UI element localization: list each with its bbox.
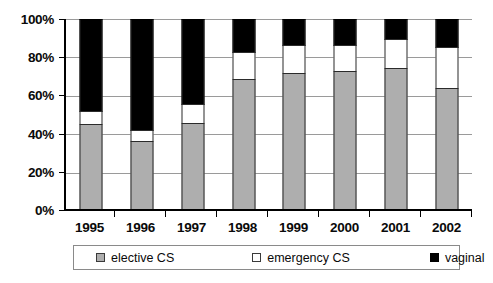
stacked-bar[interactable]: [435, 19, 458, 209]
x-tick: [217, 211, 268, 218]
x-tick-label-2001: 2001: [370, 220, 421, 238]
y-tick-label-0: 0%: [2, 204, 54, 218]
x-tick: [268, 211, 319, 218]
x-tick-label-2002: 2002: [421, 220, 472, 238]
bar-segment-emergency-cs[interactable]: [384, 40, 407, 69]
y-tick-label-100: 100%: [2, 13, 54, 27]
stacked-bar[interactable]: [384, 19, 407, 209]
x-tick-label-1999: 1999: [268, 220, 319, 238]
bar-slot: [269, 19, 320, 209]
bar-segment-emergency-cs[interactable]: [131, 131, 154, 142]
x-tick-label-2000: 2000: [319, 220, 370, 238]
y-tick-label-60: 60%: [2, 89, 54, 103]
legend-label-emergency-cs: emergency CS: [267, 251, 350, 265]
bar-segment-emergency-cs[interactable]: [232, 53, 255, 80]
plot-area: [64, 19, 472, 211]
x-tick-label-1995: 1995: [64, 220, 115, 238]
bar-segment-elective-cs[interactable]: [334, 72, 357, 209]
legend-item-elective-cs: elective CS: [96, 251, 174, 265]
bar-segment-emergency-cs[interactable]: [435, 48, 458, 90]
bar-segment-emergency-cs[interactable]: [80, 112, 103, 125]
chart-legend: elective CS emergency CS vaginal: [73, 245, 460, 270]
bar-segment-vaginal[interactable]: [181, 19, 204, 105]
gray-swatch-icon: [96, 253, 105, 262]
bar-segment-elective-cs[interactable]: [283, 74, 306, 209]
bar-segment-vaginal[interactable]: [334, 19, 357, 46]
bar-segment-elective-cs[interactable]: [131, 142, 154, 209]
bar-slot: [218, 19, 269, 209]
bar-segment-vaginal[interactable]: [131, 19, 154, 131]
x-tick-label-1998: 1998: [217, 220, 268, 238]
stacked-bar[interactable]: [80, 19, 103, 209]
legend-label-elective-cs: elective CS: [111, 251, 174, 265]
x-tick-label-1997: 1997: [166, 220, 217, 238]
bar-slot: [168, 19, 219, 209]
stacked-bar[interactable]: [283, 19, 306, 209]
x-tick: [115, 211, 166, 218]
stacked-bar-chart: 100% 80% 60% 40% 20% 0%: [0, 0, 493, 283]
stacked-bar[interactable]: [232, 19, 255, 209]
bar-segment-vaginal[interactable]: [384, 19, 407, 40]
bar-series-group: [66, 19, 472, 209]
y-tick-label-20: 20%: [2, 166, 54, 180]
bar-slot: [371, 19, 422, 209]
bar-segment-emergency-cs[interactable]: [334, 46, 357, 73]
bar-slot: [117, 19, 168, 209]
bar-segment-emergency-cs[interactable]: [181, 105, 204, 124]
bar-segment-vaginal[interactable]: [435, 19, 458, 48]
x-tick: [64, 211, 115, 218]
x-axis-ticks: [64, 211, 472, 218]
stacked-bar[interactable]: [131, 19, 154, 209]
stacked-bar[interactable]: [334, 19, 357, 209]
legend-item-emergency-cs: emergency CS: [252, 251, 350, 265]
y-tick-label-80: 80%: [2, 51, 54, 65]
bar-slot: [66, 19, 117, 209]
bar-segment-elective-cs[interactable]: [384, 69, 407, 209]
x-tick: [370, 211, 421, 218]
bar-slot: [421, 19, 472, 209]
x-tick-label-1996: 1996: [115, 220, 166, 238]
y-tick-label-40: 40%: [2, 128, 54, 142]
bar-slot: [320, 19, 371, 209]
bar-segment-elective-cs[interactable]: [435, 89, 458, 209]
x-tick: [421, 211, 472, 218]
x-tick: [319, 211, 370, 218]
bar-segment-vaginal[interactable]: [80, 19, 103, 112]
bar-segment-elective-cs[interactable]: [80, 125, 103, 209]
bar-segment-emergency-cs[interactable]: [283, 46, 306, 75]
white-swatch-icon: [252, 253, 261, 262]
x-axis-labels: 1995 1996 1997 1998 1999 2000 2001 2002: [64, 220, 472, 238]
legend-item-vaginal: vaginal: [430, 251, 485, 265]
bar-segment-elective-cs[interactable]: [181, 124, 204, 210]
legend-label-vaginal: vaginal: [445, 251, 485, 265]
black-swatch-icon: [430, 253, 439, 262]
bar-segment-elective-cs[interactable]: [232, 80, 255, 209]
bar-segment-vaginal[interactable]: [283, 19, 306, 46]
x-tick: [166, 211, 217, 218]
bar-segment-vaginal[interactable]: [232, 19, 255, 53]
stacked-bar[interactable]: [181, 19, 204, 209]
